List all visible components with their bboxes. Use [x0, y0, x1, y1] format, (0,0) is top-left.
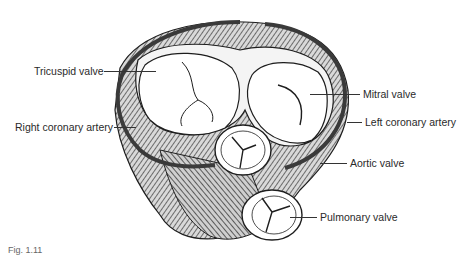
- leader-aortic: [320, 163, 347, 164]
- label-left-coronary-artery: Left coronary artery: [365, 116, 456, 128]
- leader-pulmonary: [290, 217, 317, 218]
- leader-right-coronary: [114, 127, 136, 128]
- label-pulmonary-valve: Pulmonary valve: [320, 211, 398, 223]
- aortic-valve: [215, 125, 271, 175]
- pulmonary-valve: [242, 190, 302, 240]
- label-mitral-valve: Mitral valve: [363, 88, 416, 100]
- figure-number: Fig. 1.11: [8, 245, 42, 255]
- leader-mitral: [310, 94, 360, 95]
- tricuspid-valve: [139, 53, 239, 134]
- label-tricuspid-valve: Tricuspid valve: [34, 65, 104, 77]
- leader-left-coronary: [347, 122, 362, 123]
- leader-tricuspid: [104, 71, 156, 72]
- label-right-coronary-artery: Right coronary artery: [15, 121, 113, 133]
- label-aortic-valve: Aortic valve: [350, 157, 404, 169]
